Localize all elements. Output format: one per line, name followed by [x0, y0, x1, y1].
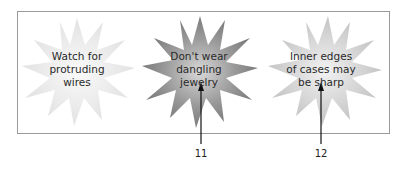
callout-number-12: 12 — [311, 148, 331, 159]
callout-text-wires: Watch for protruding wires — [37, 50, 117, 89]
callout-text-sharp-edges: Inner edges of cases may be sharp — [278, 50, 364, 89]
callout-text-jewelry: Don't wear dangling jewelry — [158, 50, 240, 89]
callout-number-11: 11 — [191, 148, 211, 159]
